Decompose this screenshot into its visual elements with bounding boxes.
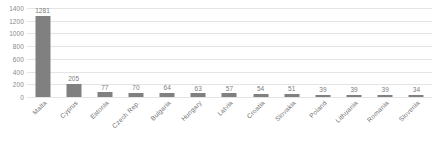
y-axis: 0200400600800100012001400 bbox=[0, 8, 27, 97]
bar-slot: 39 bbox=[370, 8, 401, 97]
bar-value-label: 57 bbox=[226, 85, 233, 92]
x-label-slot: Lithuania bbox=[339, 97, 370, 154]
bar-slot: 205 bbox=[58, 8, 89, 97]
bar-value-label: 1281 bbox=[35, 7, 50, 14]
y-axis-tick-label: 1000 bbox=[9, 30, 24, 37]
bar-value-label: 63 bbox=[195, 85, 202, 92]
x-label-slot: Poland bbox=[307, 97, 338, 154]
x-axis-labels: MaltaCyprusEstoniaCzech Rep.BulgariaHung… bbox=[27, 97, 432, 154]
y-axis-tick-label: 400 bbox=[13, 68, 24, 75]
x-axis-category-label: Bulgaria bbox=[149, 99, 172, 122]
y-axis-tick-label: 0 bbox=[20, 94, 24, 101]
y-axis-tick-label: 200 bbox=[13, 81, 24, 88]
x-label-slot: Croatia bbox=[245, 97, 276, 154]
bar-slot: 64 bbox=[152, 8, 183, 97]
bar-slot: 70 bbox=[120, 8, 151, 97]
bar-value-label: 70 bbox=[132, 84, 139, 91]
bar-value-label: 39 bbox=[319, 86, 326, 93]
bar-value-label: 39 bbox=[382, 86, 389, 93]
plot-area: 12812057770646357545139393934 bbox=[27, 8, 432, 97]
x-axis-category-label: Slovakia bbox=[273, 99, 296, 122]
y-axis-tick-label: 800 bbox=[13, 43, 24, 50]
x-axis-category-label: Lithuania bbox=[334, 99, 359, 124]
y-axis-tick-label: 1200 bbox=[9, 17, 24, 24]
bar-slot: 57 bbox=[214, 8, 245, 97]
x-label-slot: Czech Rep. bbox=[120, 97, 151, 154]
bar-slot: 54 bbox=[245, 8, 276, 97]
bar-slot: 39 bbox=[307, 8, 338, 97]
bar-slot: 63 bbox=[183, 8, 214, 97]
x-label-slot: Romania bbox=[370, 97, 401, 154]
bar-series: 12812057770646357545139393934 bbox=[27, 8, 432, 97]
x-label-slot: Slovenia bbox=[401, 97, 432, 154]
bar-value-label: 51 bbox=[288, 85, 295, 92]
y-axis-tick-label: 600 bbox=[13, 55, 24, 62]
x-axis-category-label: Latvia bbox=[216, 99, 234, 117]
bar-value-label: 64 bbox=[163, 84, 170, 91]
x-label-slot: Bulgaria bbox=[152, 97, 183, 154]
x-axis-category-label: Poland bbox=[308, 99, 328, 119]
bar-value-label: 39 bbox=[350, 86, 357, 93]
bar-slot: 1281 bbox=[27, 8, 58, 97]
x-label-slot: Cyprus bbox=[58, 97, 89, 154]
x-axis-category-label: Croatia bbox=[245, 99, 266, 120]
bar-slot: 51 bbox=[276, 8, 307, 97]
bar[interactable] bbox=[66, 84, 81, 97]
bar-value-label: 205 bbox=[68, 75, 79, 82]
bar-chart: 0200400600800100012001400 12812057770646… bbox=[0, 0, 435, 154]
bar-slot: 77 bbox=[89, 8, 120, 97]
x-axis-category-label: Romania bbox=[366, 99, 390, 123]
x-axis-category-label: Hungary bbox=[180, 99, 203, 122]
x-label-slot: Malta bbox=[27, 97, 58, 154]
x-axis-category-label: Estonia bbox=[89, 99, 110, 120]
bar[interactable] bbox=[35, 16, 50, 97]
bar-value-label: 77 bbox=[101, 84, 108, 91]
x-label-slot: Latvia bbox=[214, 97, 245, 154]
bar-slot: 34 bbox=[401, 8, 432, 97]
x-axis-category-label: Malta bbox=[31, 99, 48, 116]
x-axis-category-label: Slovenia bbox=[398, 99, 422, 123]
bar-value-label: 54 bbox=[257, 85, 264, 92]
x-label-slot: Hungary bbox=[183, 97, 214, 154]
bar-value-label: 34 bbox=[413, 86, 420, 93]
x-axis-category-label: Cyprus bbox=[58, 99, 78, 119]
bar-slot: 39 bbox=[339, 8, 370, 97]
y-axis-tick-label: 1400 bbox=[9, 5, 24, 12]
x-label-slot: Slovakia bbox=[276, 97, 307, 154]
